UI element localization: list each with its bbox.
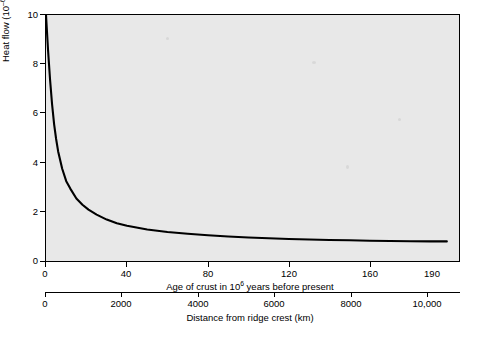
x-tick-label-160: 160 — [350, 268, 390, 279]
distance-tick-mark-6000 — [274, 292, 275, 297]
y-tick-label-10: 10 — [20, 9, 38, 20]
x-tick-label-80: 80 — [188, 268, 228, 279]
y-tick-label-8: 8 — [20, 58, 38, 69]
x-tick-label-120: 120 — [269, 268, 309, 279]
distance-axis-line — [45, 292, 460, 293]
distance-tick-mark-4000 — [198, 292, 199, 297]
x-tick-mark-0 — [45, 262, 46, 267]
age-axis-title-prefix: Age of crust in 10 — [166, 281, 240, 292]
distance-tick-mark-8000 — [351, 292, 352, 297]
y-tick-label-2: 2 — [20, 206, 38, 217]
y-axis-title-prefix: Heat flow (10 — [0, 6, 11, 62]
distance-tick-mark-10000 — [427, 292, 428, 297]
distance-tick-label-2000: 2000 — [95, 298, 147, 309]
y-tick-label-6: 6 — [20, 107, 38, 118]
scan-speck — [398, 118, 401, 121]
distance-tick-label-10000: 10,000 — [401, 298, 453, 309]
x-tick-mark-40 — [126, 262, 127, 267]
heat-flow-curve — [46, 15, 461, 263]
distance-tick-label-0: 0 — [19, 298, 71, 309]
x-tick-mark-160 — [370, 262, 371, 267]
y-axis-title-exponent: –6 — [0, 0, 6, 6]
x-tick-label-0: 0 — [25, 268, 65, 279]
scan-speck — [312, 61, 316, 64]
plot-area — [45, 14, 460, 262]
chart-figure: Heat flow (10–6 calories/cm2/sec) 10 8 6… — [0, 0, 485, 343]
age-axis-title: Age of crust in 106 years before present — [100, 280, 400, 292]
scan-speck — [346, 165, 349, 169]
scan-speck — [166, 37, 169, 40]
distance-tick-mark-2000 — [121, 292, 122, 297]
x-tick-label-40: 40 — [106, 268, 146, 279]
y-axis-title: Heat flow (10–6 calories/cm2/sec) — [0, 0, 11, 62]
distance-tick-mark-0 — [45, 292, 46, 297]
y-tick-label-4: 4 — [20, 157, 38, 168]
distance-axis-title: Distance from ridge crest (km) — [100, 312, 400, 323]
age-axis-title-suffix: years before present — [244, 281, 334, 292]
x-tick-label-190: 190 — [412, 268, 452, 279]
distance-tick-label-4000: 4000 — [172, 298, 224, 309]
distance-tick-label-8000: 8000 — [325, 298, 377, 309]
x-tick-mark-80 — [208, 262, 209, 267]
distance-tick-label-6000: 6000 — [248, 298, 300, 309]
x-tick-mark-120 — [289, 262, 290, 267]
y-tick-label-0: 0 — [20, 255, 38, 266]
